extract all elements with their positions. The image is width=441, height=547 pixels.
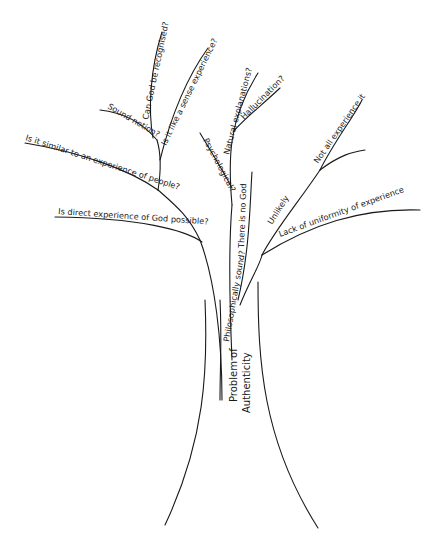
label-lack-of-uniformity: Lack of uniformity of experience <box>277 184 405 239</box>
label-sense-experience: Is it like a sense experience? <box>159 37 220 147</box>
root-label: Problem of <box>228 348 239 402</box>
label-unlikely: Unlikely <box>265 193 291 226</box>
branch-unlikely <box>240 100 420 305</box>
label-sound-notion: Sound notion? <box>106 101 162 139</box>
label-can-god-be-recognised: Can God be recognised? <box>140 21 171 121</box>
label-philosophically-sound: Philosophically sound? <box>221 250 247 343</box>
tree-diagram: Problem of Authenticity Philosophically … <box>0 0 441 547</box>
label-there-is-no-god: There is no God <box>236 183 248 249</box>
label-direct-experience: Is direct experience of God possible? <box>58 206 209 226</box>
label-not-all-experience: Not all experience it <box>311 91 367 165</box>
root-label-line2: Authenticity <box>241 352 252 413</box>
